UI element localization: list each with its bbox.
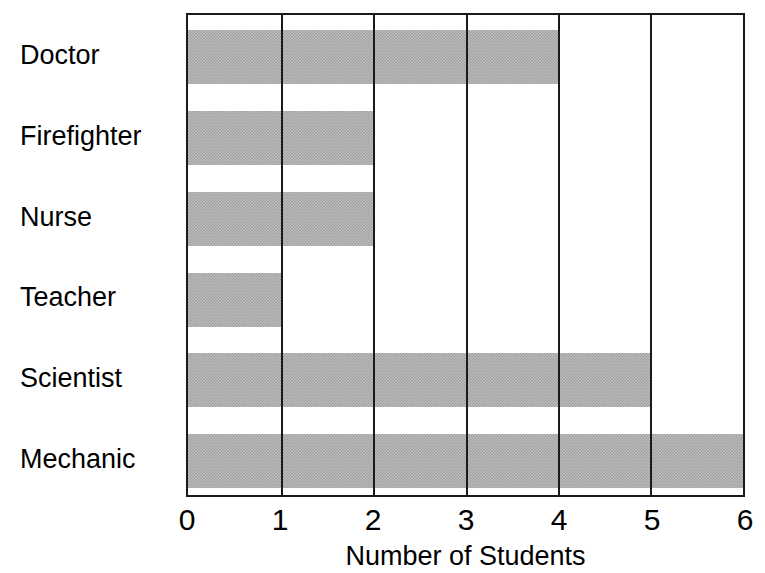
category-label-nurse: Nurse — [20, 204, 180, 231]
gridline-1 — [281, 15, 283, 495]
plot-area — [186, 13, 745, 497]
x-axis-title: Number of Students — [186, 543, 745, 570]
xtick-0: 0 — [157, 505, 217, 535]
gridline-5 — [650, 15, 652, 495]
category-label-scientist: Scientist — [20, 365, 180, 392]
xtick-6: 6 — [715, 505, 765, 535]
xtick-4: 4 — [529, 505, 589, 535]
xtick-2: 2 — [343, 505, 403, 535]
gridline-3 — [466, 15, 468, 495]
category-label-firefighter: Firefighter — [20, 123, 180, 150]
xtick-3: 3 — [436, 505, 496, 535]
category-label-doctor: Doctor — [20, 42, 180, 69]
category-label-teacher: Teacher — [20, 284, 180, 311]
category-label-mechanic: Mechanic — [20, 446, 180, 473]
gridline-4 — [558, 15, 560, 495]
bar-teacher — [188, 273, 281, 327]
xtick-5: 5 — [622, 505, 682, 535]
bar-chart: Doctor Firefighter Nurse Teacher Scienti… — [0, 0, 765, 573]
gridline-2 — [373, 15, 375, 495]
xtick-1: 1 — [250, 505, 310, 535]
bar-scientist — [188, 353, 650, 407]
